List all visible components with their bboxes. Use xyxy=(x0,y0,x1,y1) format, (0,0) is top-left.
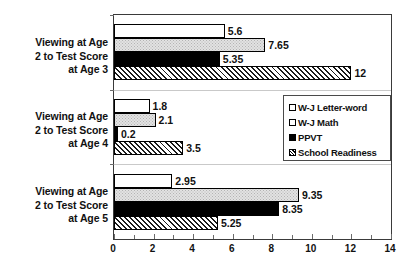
bar-value-label: 2.1 xyxy=(159,113,174,127)
bar-value-label: 7.65 xyxy=(268,38,288,52)
x-axis-major-tick xyxy=(312,234,313,239)
bar-w-j-math-group-3 xyxy=(114,188,299,202)
legend-item-label: School Readiness xyxy=(298,147,377,158)
category-label-age-5: Viewing at Age 2 to Test Score at Age 5 xyxy=(2,185,108,226)
x-axis-minor-tick xyxy=(371,235,372,239)
legend-item-wj-letter-word: W-J Letter-word xyxy=(289,100,390,115)
bar-ppvt-group-2 xyxy=(114,127,118,141)
bar-value-label: 2.95 xyxy=(175,174,195,188)
bar-w-j-letter-word-group-3 xyxy=(114,174,172,188)
x-axis-tick-label: 4 xyxy=(189,243,195,254)
x-axis-minor-tick xyxy=(213,235,214,239)
category-label-age-3: Viewing at Age 2 to Test Score at Age 3 xyxy=(2,36,108,77)
x-axis-tick-label: 14 xyxy=(384,243,395,254)
category-separator xyxy=(114,90,391,91)
legend-swatch-icon xyxy=(289,149,296,156)
category-label-line: Viewing at Age xyxy=(2,185,108,199)
bar-w-j-letter-word-group-1 xyxy=(114,24,225,38)
bar-value-label: 5.25 xyxy=(221,216,241,230)
legend-swatch-icon xyxy=(289,119,296,126)
x-axis-minor-tick xyxy=(253,235,254,239)
x-axis-tick-label: 0 xyxy=(110,243,116,254)
category-separator xyxy=(114,164,391,165)
bar-w-j-letter-word-group-2 xyxy=(114,99,150,113)
x-axis-tick-label: 10 xyxy=(305,243,316,254)
legend-item-wj-math: W-J Math xyxy=(289,115,390,130)
bar-ppvt-group-1 xyxy=(114,52,220,66)
category-label-line: Viewing at Age xyxy=(2,36,108,50)
category-label-line: Viewing at Age xyxy=(2,110,108,124)
bar-value-label: 5.6 xyxy=(228,24,243,38)
x-axis-major-tick xyxy=(233,234,234,239)
bar-value-label: 5.35 xyxy=(223,52,243,66)
bar-value-label: 12 xyxy=(354,66,366,80)
x-axis-major-tick xyxy=(114,234,115,239)
bar-ppvt-group-3 xyxy=(114,202,279,216)
x-axis-tick-label: 6 xyxy=(229,243,235,254)
category-label-line: 2 to Test Score xyxy=(2,199,108,213)
x-axis-minor-tick xyxy=(173,235,174,239)
chart-legend: W-J Letter-word W-J Math PPVT School Rea… xyxy=(283,95,391,161)
bar-school-readiness-group-1 xyxy=(114,66,351,80)
category-label-line: at Age 5 xyxy=(2,212,108,226)
bar-school-readiness-group-3 xyxy=(114,216,218,230)
legend-item-ppvt: PPVT xyxy=(289,130,390,145)
legend-swatch-icon xyxy=(289,134,296,141)
y-axis-tick xyxy=(110,90,114,91)
legend-item-label: PPVT xyxy=(298,132,322,143)
x-axis-major-tick xyxy=(193,234,194,239)
x-axis-minor-tick xyxy=(292,235,293,239)
x-axis-major-tick xyxy=(272,234,273,239)
x-axis-tick-label: 8 xyxy=(269,243,275,254)
x-axis-tick-label: 2 xyxy=(150,243,156,254)
bar-value-label: 0.2 xyxy=(121,127,136,141)
category-label-line: at Age 4 xyxy=(2,137,108,151)
x-axis-major-tick xyxy=(154,234,155,239)
y-axis-tick xyxy=(110,15,114,16)
y-axis-tick xyxy=(110,164,114,165)
x-axis-minor-tick xyxy=(332,235,333,239)
category-label-line: at Age 3 xyxy=(2,63,108,77)
legend-item-school-readiness: School Readiness xyxy=(289,145,390,160)
category-label-line: 2 to Test Score xyxy=(2,124,108,138)
x-axis-major-tick xyxy=(351,234,352,239)
category-label-age-4: Viewing at Age 2 to Test Score at Age 4 xyxy=(2,110,108,151)
x-axis-minor-tick xyxy=(134,235,135,239)
legend-item-label: W-J Letter-word xyxy=(298,102,367,113)
bar-value-label: 9.35 xyxy=(302,188,322,202)
legend-swatch-icon xyxy=(289,104,296,111)
category-label-line: 2 to Test Score xyxy=(2,50,108,64)
bar-value-label: 1.8 xyxy=(153,99,168,113)
bar-value-label: 3.5 xyxy=(186,141,201,155)
bar-chart: Viewing at Age 2 to Test Score at Age 3 … xyxy=(0,0,420,273)
x-axis-tick-label: 12 xyxy=(345,243,356,254)
x-axis-major-tick xyxy=(391,234,392,239)
bar-w-j-math-group-2 xyxy=(114,113,156,127)
bar-w-j-math-group-1 xyxy=(114,38,265,52)
bar-school-readiness-group-2 xyxy=(114,141,183,155)
x-axis-tick-labels: 02468101214 xyxy=(113,243,392,259)
bar-value-label: 8.35 xyxy=(282,202,302,216)
legend-item-label: W-J Math xyxy=(298,117,338,128)
